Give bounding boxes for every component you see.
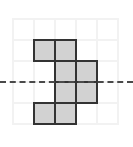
figure-canvas xyxy=(0,0,133,147)
symmetry-axis-line xyxy=(0,81,133,83)
symmetry-axis-layer xyxy=(0,0,133,147)
